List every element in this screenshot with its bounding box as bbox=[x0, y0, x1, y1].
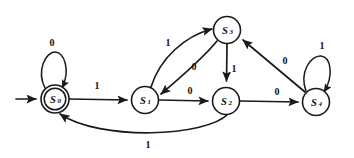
transition-label-s1-s2: 0 bbox=[188, 85, 193, 96]
transition-s1-s3: 1 bbox=[151, 29, 212, 87]
fsm-diagram: 0 1 1 0 0 1 0 bbox=[0, 0, 354, 158]
transition-label-s4-s3: 0 bbox=[283, 55, 288, 66]
transition-label-s2-s0: 1 bbox=[146, 139, 151, 150]
transition-label-s3-s2: 1 bbox=[232, 63, 237, 74]
transition-s0-s1: 1 bbox=[69, 80, 127, 101]
state-subscript-s2: 2 bbox=[228, 99, 233, 107]
state-label-s1: S bbox=[140, 95, 146, 106]
transition-label-s1-s3: 1 bbox=[166, 37, 171, 48]
state-label-s2: S bbox=[221, 96, 227, 107]
state-label-s3: S bbox=[222, 25, 228, 36]
state-node-s1[interactable]: S 1 bbox=[132, 87, 159, 114]
transition-label-s4-s4: 1 bbox=[320, 40, 325, 51]
state-subscript-s4: 4 bbox=[318, 100, 323, 108]
state-subscript-s1: 1 bbox=[148, 98, 152, 106]
state-label-s4: S bbox=[311, 97, 317, 108]
state-node-s2[interactable]: S 2 bbox=[213, 88, 240, 115]
transition-label-s2-s4: 0 bbox=[275, 86, 280, 97]
transition-label-s0-s1: 1 bbox=[95, 80, 100, 91]
transition-s0-s0: 0 bbox=[41, 37, 66, 89]
transition-s2-s0: 1 bbox=[60, 114, 228, 150]
state-node-s4[interactable]: S 4 bbox=[303, 89, 330, 116]
fsm-canvas: 0 1 1 0 0 1 0 bbox=[0, 0, 354, 158]
transition-s4-s3: 0 bbox=[243, 40, 305, 92]
state-node-s0[interactable]: S 0 bbox=[41, 85, 69, 113]
state-label-s0: S bbox=[50, 94, 56, 105]
state-subscript-s3: 3 bbox=[229, 28, 234, 36]
transition-label-s3-s1: 0 bbox=[192, 61, 197, 72]
transition-s2-s4: 0 bbox=[240, 86, 298, 103]
transition-s3-s2: 1 bbox=[227, 44, 237, 81]
transition-s1-s2: 0 bbox=[159, 85, 208, 102]
state-node-s3[interactable]: S 3 bbox=[214, 17, 241, 44]
state-subscript-s0: 0 bbox=[58, 97, 62, 105]
transition-s4-s4: 1 bbox=[304, 40, 330, 93]
transition-label-s0-s0: 0 bbox=[50, 37, 55, 48]
